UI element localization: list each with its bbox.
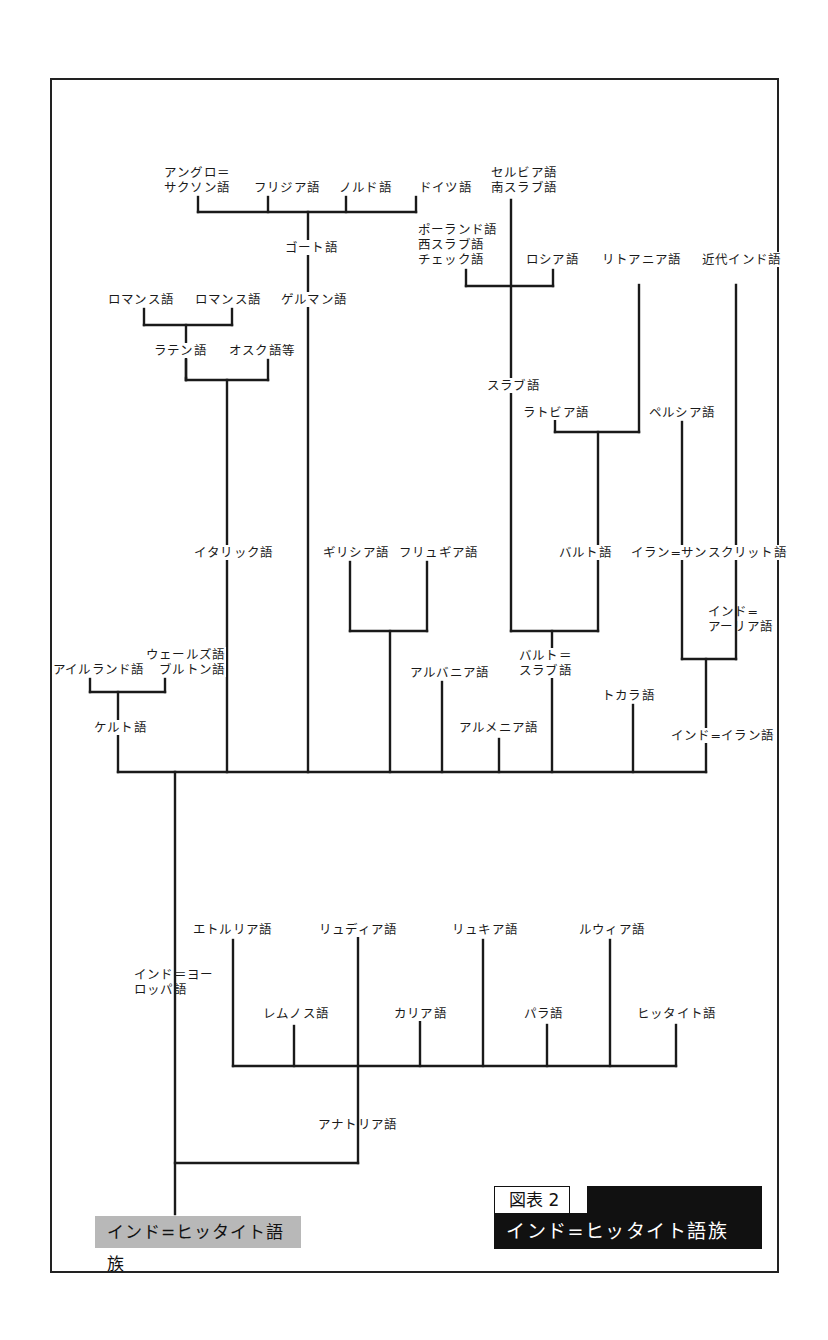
- label-line: サクソン語: [164, 180, 230, 195]
- label-line: ポーランド語: [418, 222, 497, 237]
- label-anglo-saxon: アングロ＝ サクソン語: [163, 165, 231, 195]
- label-persian: ペルシア語: [648, 405, 716, 420]
- label-modern-indic: 近代インド語: [701, 252, 782, 267]
- label-line: ウェールズ語: [146, 647, 225, 662]
- label-line: アングロ＝: [164, 165, 230, 180]
- label-carian: カリア語: [393, 1006, 448, 1021]
- figure-caption: 図表 2 インド=ヒッタイト語族: [494, 1186, 762, 1249]
- label-line: アーリア語: [708, 619, 773, 634]
- label-baltic: バルト語: [558, 545, 613, 560]
- label-slavic: スラブ語: [486, 378, 541, 393]
- label-lemnian: レムノス語: [262, 1006, 330, 1021]
- label-balto-slavic: バルト＝ スラブ語: [518, 648, 573, 678]
- label-luwian: ルウィア語: [578, 922, 646, 937]
- label-line: インド=: [708, 604, 773, 619]
- label-romance-1: ロマンス語: [107, 292, 175, 307]
- label-germanic: ゲルマン語: [280, 292, 348, 307]
- label-polish: ポーランド語 西スラブ語 チェック語: [417, 222, 498, 267]
- label-frisian: フリジア語: [253, 180, 321, 195]
- label-line: ロッパ語: [134, 982, 213, 997]
- figure-number: 図表 2: [494, 1186, 570, 1213]
- label-gothic: ゴート語: [284, 240, 339, 255]
- label-indo-aryan: インド= アーリア語: [707, 604, 774, 634]
- label-lycian: リュキア語: [451, 922, 519, 937]
- label-line: チェック語: [418, 252, 497, 267]
- label-welsh-breton: ウェールズ語 ブルトン語: [145, 647, 226, 677]
- label-line: スラブ語: [519, 663, 572, 678]
- label-iran-sanskrit: イラン=サンスクリット語: [630, 545, 788, 560]
- label-oscan: オスク語等: [228, 343, 296, 358]
- label-norse: ノルド語: [338, 180, 393, 195]
- label-line: ブルトン語: [146, 662, 225, 677]
- label-romance-2: ロマンス語: [194, 292, 262, 307]
- label-line: 南スラブ語: [491, 180, 557, 195]
- label-line: インド＝ヨー: [134, 967, 213, 982]
- label-irish: アイルランド語: [52, 662, 145, 677]
- label-latvian: ラトビア語: [522, 405, 590, 420]
- figure-number-bar: [587, 1186, 762, 1213]
- label-line: バルト＝: [519, 648, 572, 663]
- label-palaic: パラ語: [523, 1006, 565, 1021]
- label-phrygian: フリュギア語: [398, 545, 479, 560]
- figure-title: インド=ヒッタイト語族: [494, 1213, 762, 1249]
- label-lithuanian: リトアニア語: [601, 252, 682, 267]
- label-indo-european: インド＝ヨー ロッパ語: [133, 967, 214, 997]
- label-indo-iranian: インド=イラン語: [670, 728, 775, 743]
- label-tocharian: トカラ語: [601, 688, 656, 703]
- label-etruscan: エトルリア語: [192, 922, 273, 937]
- label-german: ドイツ語: [418, 180, 473, 195]
- label-lydian: リュディア語: [318, 922, 398, 937]
- label-armenian: アルメニア語: [458, 720, 539, 735]
- root-family-box: インド=ヒッタイト語族: [95, 1216, 301, 1248]
- label-anatolian: アナトリア語: [317, 1117, 398, 1132]
- label-greek: ギリシア語: [322, 545, 390, 560]
- label-italic: イタリック語: [193, 545, 274, 560]
- label-hittite: ヒッタイト語: [636, 1006, 717, 1021]
- label-albanian: アルバニア語: [409, 665, 490, 680]
- label-line: 西スラブ語: [418, 237, 497, 252]
- label-celtic: ケルト語: [93, 720, 148, 735]
- label-latin: ラテン語: [153, 343, 208, 358]
- label-russian: ロシア語: [525, 252, 580, 267]
- label-line: セルビア語: [491, 165, 557, 180]
- label-serbian: セルビア語 南スラブ語: [490, 165, 558, 195]
